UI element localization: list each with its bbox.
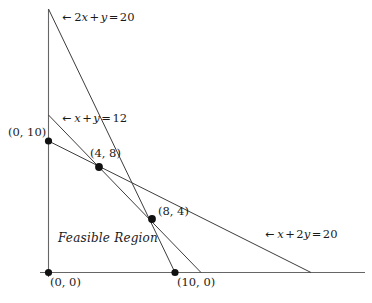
left-arrow-icon-1: ← [62, 12, 71, 23]
equation-label-2x-plus-y-eq-20: ←2x+y=20 [62, 12, 134, 24]
equation-label-x-plus-y-eq-12: ←x+y=12 [62, 113, 127, 125]
vertex-label-4-8: (4, 8) [90, 148, 121, 160]
left-arrow-icon-2: ← [62, 113, 71, 124]
equation-label-x-plus-2y-eq-20: ←x+2y=20 [265, 229, 337, 241]
feasible-region-label: Feasible Region [58, 231, 158, 245]
figure-canvas: ←2x+y=20 ←x+y=12 ←x+2y=20 (0, 10) (4, 8)… [0, 0, 372, 303]
vertex-dot-4-8 [95, 163, 103, 171]
left-arrow-icon-3: ← [265, 229, 274, 240]
constraint-line-x-plus-y-eq-12 [49, 115, 202, 273]
vertex-dot-8-4 [148, 215, 156, 223]
feasible-region-plot [0, 0, 372, 303]
vertex-label-0-10: (0, 10) [8, 127, 46, 139]
vertex-label-8-4: (8, 4) [158, 206, 189, 218]
vertex-label-10-0: (10, 0) [177, 277, 215, 289]
vertex-label-0-0: (0, 0) [50, 277, 81, 289]
